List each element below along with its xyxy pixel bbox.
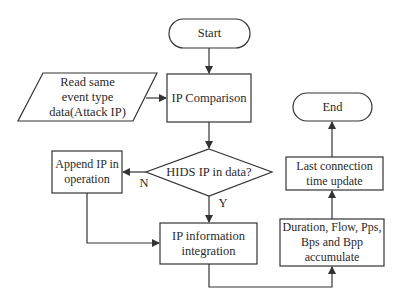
last-connection-line-1: Last connection <box>296 159 372 174</box>
read-data-label: Read same event type data(Attack IP) <box>30 73 145 121</box>
ip-comparison-label: IP Comparison <box>167 74 251 122</box>
last-connection-label: Last connection time update <box>286 157 383 190</box>
hids-decision-label: HIDS IP in data? <box>150 149 268 196</box>
accumulate-line-1: Duration, Flow, Pps, <box>283 220 382 235</box>
read-data-line-1: Read same <box>60 75 115 90</box>
end-label: End <box>293 93 372 121</box>
append-ip-line-2: operation <box>64 172 109 187</box>
edge-label-yes: Y <box>216 196 230 211</box>
ip-integration-line-1: IP information <box>172 229 245 244</box>
accumulate-line-2: Bps and Bpp <box>301 235 363 250</box>
accumulate-line-3: accumulate <box>305 250 360 265</box>
ip-integration-line-2: integration <box>181 244 235 259</box>
accumulate-label: Duration, Flow, Pps, Bps and Bpp accumul… <box>280 219 384 266</box>
edge-label-no: N <box>137 176 151 191</box>
start-label: Start <box>169 19 250 48</box>
read-data-line-2: event type <box>62 90 114 105</box>
append-ip-label: Append IP in operation <box>52 151 122 193</box>
edge-append-to-integration <box>87 193 159 243</box>
read-data-line-3: data(Attack IP) <box>49 105 126 120</box>
append-ip-line-1: Append IP in <box>55 157 119 172</box>
edge-integration-to-accumulate <box>209 264 332 287</box>
ip-integration-label: IP information integration <box>160 223 257 264</box>
last-connection-line-2: time update <box>306 174 362 189</box>
